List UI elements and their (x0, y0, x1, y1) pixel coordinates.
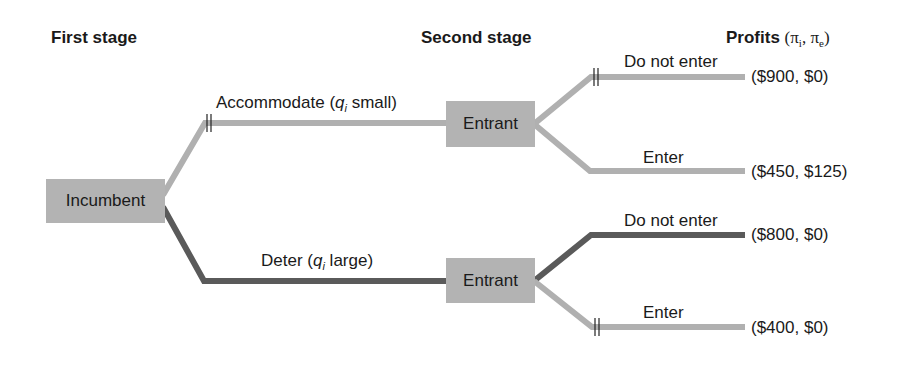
payoff-accommodate-do-not-enter: ($900, $0) (751, 67, 829, 87)
node-entrant-bottom-label: Entrant (463, 271, 518, 291)
label-deter: Deter (qi large) (261, 251, 373, 272)
node-incumbent-label: Incumbent (66, 191, 145, 211)
branch-accommodate (163, 123, 448, 195)
branch-bottom-do-not-enter (534, 235, 745, 281)
label-accommodate: Accommodate (qi small) (216, 93, 397, 114)
label-bottom-do-not-enter: Do not enter (624, 211, 718, 231)
node-entrant-top: Entrant (446, 101, 535, 147)
payoff-deter-enter: ($400, $0) (751, 318, 829, 338)
label-top-do-not-enter: Do not enter (624, 52, 718, 72)
node-incumbent: Incumbent (46, 179, 165, 223)
branch-bottom-enter (534, 281, 745, 327)
label-bottom-enter: Enter (643, 303, 684, 323)
label-top-enter: Enter (643, 148, 684, 168)
payoff-deter-do-not-enter: ($800, $0) (751, 225, 829, 245)
payoff-accommodate-enter: ($450, $125) (751, 162, 847, 182)
branch-top-enter (534, 124, 745, 171)
node-entrant-bottom: Entrant (446, 258, 535, 303)
node-entrant-top-label: Entrant (463, 114, 518, 134)
branch-top-do-not-enter (534, 77, 745, 124)
